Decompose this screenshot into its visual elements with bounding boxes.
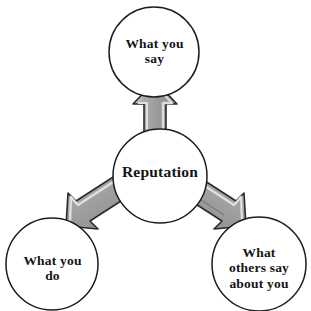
- node-circle-bottom-left: [6, 218, 98, 310]
- node-circle-top: [109, 7, 199, 97]
- node-circle-bottom-right: [212, 217, 306, 311]
- node-circle-center: [113, 129, 207, 223]
- diagram-canvas: [0, 0, 311, 311]
- reputation-diagram: Reputation What you say What you do What…: [0, 0, 311, 311]
